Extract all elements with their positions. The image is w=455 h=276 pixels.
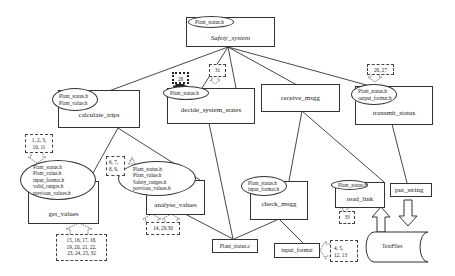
include-file: input_format.h xyxy=(248,186,286,192)
annotation-text: 33 xyxy=(344,214,349,220)
annotation-text: 28 xyxy=(178,76,183,82)
annotation-text: 14, 29,30 xyxy=(153,225,172,231)
module-label: input_format xyxy=(275,247,319,253)
module-plant-status-c[interactable]: Plant_status.c xyxy=(212,239,258,253)
annotation-text: 12, 13 xyxy=(334,252,357,259)
annotation-text: 23, 24, 25, 32 xyxy=(57,250,106,257)
structure-chart: Safety_system Plant_status.h calculate_t… xyxy=(0,0,455,276)
module-label: Plant_status.c xyxy=(213,243,257,249)
annotation-text: 31 xyxy=(215,67,220,73)
include-file: previous_values.h xyxy=(33,190,95,196)
module-label: read_link xyxy=(336,195,384,203)
include-file: Plant_value.h xyxy=(59,100,97,106)
include-oval-check-msgg: Plant_status.h input_format.h xyxy=(241,176,287,196)
include-oval-safety-system: Plant_status.h xyxy=(188,16,234,28)
include-file: Plant_status.h xyxy=(170,90,208,96)
include-file: previous_values.h xyxy=(133,185,195,191)
module-label: calculate_trips xyxy=(59,111,139,119)
module-put-string[interactable]: put_string xyxy=(390,183,432,197)
annotation-6-9: 6, 7, 8, 9, xyxy=(106,156,125,176)
annotation-28: 28 xyxy=(172,72,189,84)
annotation-14-30: 14, 29,30 xyxy=(146,222,180,235)
annotation-31: 31 xyxy=(209,64,226,77)
include-oval-read-link: Plant_status.h xyxy=(331,180,368,190)
module-label: analyse_values xyxy=(147,201,204,209)
module-label: check_msgg xyxy=(251,200,307,208)
annotation-1-11: 1, 2, 3, 10, 11 xyxy=(25,134,53,153)
annotation-15-32: 15, 16, 17, 18, 19, 20, 21, 22, 23, 24, … xyxy=(56,234,107,261)
include-oval-calculate-trips: Plant_status.h Plant_value.h xyxy=(52,88,98,111)
module-label: get_values xyxy=(29,210,98,218)
annotation-text: 26, 27 xyxy=(374,67,387,73)
module-input-format[interactable]: input_format xyxy=(274,243,320,258)
module-label: put_string xyxy=(391,186,431,194)
module-label: receive_msgg xyxy=(262,94,339,102)
datastore-textfiles: TextFiles xyxy=(382,243,402,249)
annotation-text: 8, 9, xyxy=(109,166,124,173)
module-label: Safety_system xyxy=(187,34,274,42)
include-file: Plant_status.h xyxy=(195,19,233,25)
annotation-33: 33 xyxy=(339,211,355,224)
module-label: decide_system_states xyxy=(168,106,254,114)
include-file: output_format.h xyxy=(358,95,396,101)
annotation-26-27: 26, 27 xyxy=(367,64,394,75)
module-receive-msgg[interactable]: receive_msgg xyxy=(261,84,340,112)
include-oval-transmit-status: Plant_status.h output_format.h xyxy=(351,84,397,105)
annotation-text: 10, 11 xyxy=(26,144,52,151)
include-oval-get-values: Plant_status.h Plant_value.h input_forma… xyxy=(20,160,96,200)
module-label: transmit_status xyxy=(356,109,432,117)
include-oval-decide-system-states: Plant_status.h xyxy=(163,86,209,100)
include-oval-analyse-values: Plant_status.h Plant_value.h Safety_rang… xyxy=(118,161,196,196)
include-file: Plant_status.h xyxy=(338,182,367,188)
annotation-4-13: 4, 5, 12, 13 xyxy=(330,240,358,262)
